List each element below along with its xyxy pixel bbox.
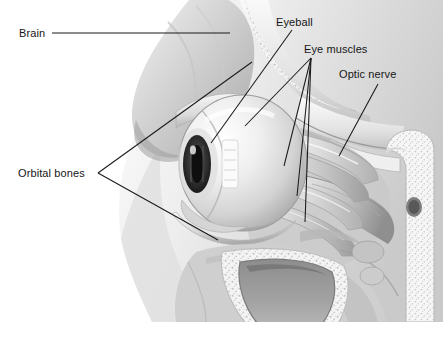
nasal-concha [352, 241, 384, 263]
anatomy-figure: Brain Eyeball Eye muscles Optic nerve Or… [0, 0, 443, 339]
lens-highlight [222, 140, 238, 188]
bone-foramen-inner [409, 200, 420, 214]
nasal-concha-2 [360, 267, 384, 285]
label-brain: Brain [19, 27, 45, 39]
label-optic-nerve: Optic nerve [339, 68, 396, 80]
label-eye-muscles: Eye muscles [304, 43, 367, 55]
label-orbital-bones: Orbital bones [18, 167, 85, 179]
iris-glint [190, 146, 196, 155]
label-eyeball: Eyeball [276, 16, 313, 28]
illustration-body [119, 0, 443, 339]
